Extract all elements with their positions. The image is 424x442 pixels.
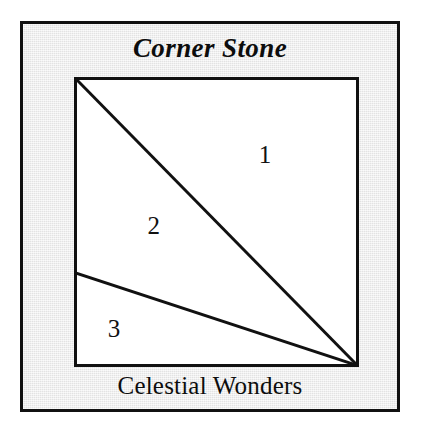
figure-caption: Celestial Wonders: [23, 371, 397, 401]
page-title: Corner Stone: [23, 32, 397, 64]
geometry-diagram: 1 2 3: [74, 77, 359, 367]
framed-plate: Corner Stone 1 2 3 Celestial Wonders: [20, 21, 400, 412]
region-label-2: 2: [148, 212, 161, 237]
region-label-3: 3: [108, 315, 121, 340]
region-label-1: 1: [259, 141, 272, 166]
figure-root: Corner Stone 1 2 3 Celestial Wonders: [0, 0, 424, 442]
